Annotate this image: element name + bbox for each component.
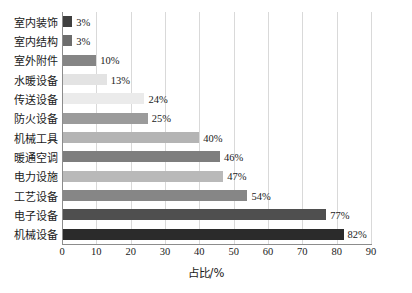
category-label-row: 电子设备 (0, 205, 58, 224)
bar-机械设备 (62, 229, 344, 240)
gridline-90 (371, 12, 372, 244)
category-label-室内结构: 室内结构 (14, 33, 58, 49)
y-axis-line (62, 12, 63, 245)
category-label-row: 暖通空调 (0, 147, 58, 166)
bar-电子设备 (62, 209, 326, 220)
bar-row: 3% (62, 31, 371, 50)
bar-chart: 3%3%10%13%24%25%40%46%47%54%77%82% 室内装饰室… (0, 0, 412, 293)
category-label-水暖设备: 水暖设备 (14, 72, 58, 88)
bar-row: 3% (62, 12, 371, 31)
bar-室外附件 (62, 55, 96, 66)
bar-value-label: 82% (348, 229, 367, 240)
category-label-row: 机械工具 (0, 128, 58, 147)
category-label-防火设备: 防火设备 (14, 110, 58, 126)
category-label-工艺设备: 工艺设备 (14, 188, 58, 204)
bar-防火设备 (62, 113, 148, 124)
bar-value-label: 40% (203, 132, 222, 143)
bar-row: 46% (62, 147, 371, 166)
category-label-row: 水暖设备 (0, 70, 58, 89)
x-tick-50: 50 (228, 246, 239, 257)
bar-row: 24% (62, 89, 371, 108)
bar-row: 82% (62, 225, 371, 244)
bar-row: 25% (62, 109, 371, 128)
bar-value-label: 3% (76, 16, 90, 27)
bar-row: 54% (62, 186, 371, 205)
x-tick-10: 10 (91, 246, 102, 257)
x-tick-90: 90 (366, 246, 377, 257)
bar-机械工具 (62, 132, 199, 143)
bar-row: 47% (62, 167, 371, 186)
category-label-row: 室内结构 (0, 31, 58, 50)
bar-value-label: 47% (227, 171, 246, 182)
bar-row: 40% (62, 128, 371, 147)
bar-row: 77% (62, 205, 371, 224)
bar-value-label: 3% (76, 35, 90, 46)
plot-area: 3%3%10%13%24%25%40%46%47%54%77%82% (62, 12, 371, 244)
category-label-row: 防火设备 (0, 109, 58, 128)
x-tick-30: 30 (160, 246, 171, 257)
category-label-暖通空调: 暖通空调 (14, 149, 58, 165)
category-label-row: 电力设施 (0, 167, 58, 186)
category-label-row: 室外附件 (0, 51, 58, 70)
bar-row: 10% (62, 51, 371, 70)
bar-value-label: 25% (152, 113, 171, 124)
x-tick-0: 0 (59, 246, 64, 257)
x-tick-40: 40 (194, 246, 205, 257)
category-label-row: 室内装饰 (0, 12, 58, 31)
category-label-row: 工艺设备 (0, 186, 58, 205)
bar-value-label: 13% (111, 74, 130, 85)
bar-暖通空调 (62, 151, 220, 162)
x-axis-line (62, 244, 372, 245)
bar-value-label: 24% (148, 93, 167, 104)
category-label-row: 传送设备 (0, 89, 58, 108)
bar-电力设施 (62, 171, 223, 182)
x-tick-80: 80 (331, 246, 342, 257)
x-tick-70: 70 (297, 246, 308, 257)
bar-value-label: 77% (330, 209, 349, 220)
bar-水暖设备 (62, 74, 107, 85)
x-axis-title: 占比/% (0, 264, 412, 280)
category-label-电力设施: 电力设施 (14, 168, 58, 184)
x-tick-20: 20 (125, 246, 136, 257)
bar-室内装饰 (62, 16, 72, 27)
bar-value-label: 54% (251, 190, 270, 201)
category-label-电子设备: 电子设备 (14, 207, 58, 223)
category-label-机械设备: 机械设备 (14, 226, 58, 242)
bar-value-label: 10% (100, 55, 119, 66)
bar-row: 13% (62, 70, 371, 89)
category-label-室外附件: 室外附件 (14, 52, 58, 68)
category-label-室内装饰: 室内装饰 (14, 14, 58, 30)
bar-室内结构 (62, 35, 72, 46)
category-label-row: 机械设备 (0, 225, 58, 244)
bar-value-label: 46% (224, 151, 243, 162)
category-label-机械工具: 机械工具 (14, 130, 58, 146)
category-axis-labels: 室内装饰室内结构室外附件水暖设备传送设备防火设备机械工具暖通空调电力设施工艺设备… (0, 12, 58, 244)
bar-工艺设备 (62, 190, 247, 201)
category-label-传送设备: 传送设备 (14, 91, 58, 107)
bar-传送设备 (62, 93, 144, 104)
x-tick-60: 60 (263, 246, 274, 257)
